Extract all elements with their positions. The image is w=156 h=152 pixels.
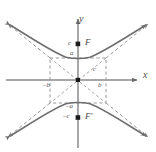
origin-marker — [76, 78, 80, 82]
y-axis-label: y — [79, 14, 83, 24]
conjugate-positive-label: b — [98, 82, 102, 89]
vertex-positive-label: a — [70, 50, 74, 57]
focus-lower-label: F′ — [85, 112, 92, 121]
focal-positive-label: c — [68, 40, 71, 47]
focus-upper-label: F — [85, 38, 91, 47]
asymptote-upper-left — [8, 24, 50, 58]
diagonal-label: c — [93, 66, 96, 73]
focus-upper-marker — [76, 42, 81, 47]
conjugate-negative-label: –b — [43, 82, 50, 89]
x-axis-label: x — [143, 70, 147, 80]
hyperbola-figure: y x c F –c F′ a –a –b b c — [0, 0, 156, 152]
focal-negative-label: –c — [63, 113, 70, 120]
focus-lower-marker — [76, 115, 81, 120]
hyperbola-diagram-svg — [0, 0, 156, 152]
asymptote-upper-right — [106, 24, 148, 58]
asymptote-lower-left — [8, 103, 50, 137]
asymptote-lower-right — [106, 103, 148, 137]
vertex-negative-label: –a — [66, 103, 73, 110]
